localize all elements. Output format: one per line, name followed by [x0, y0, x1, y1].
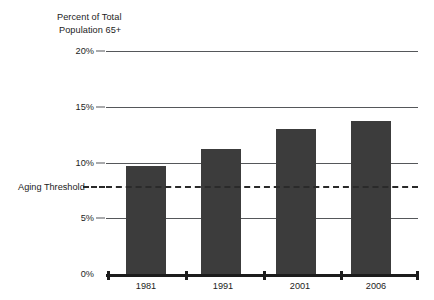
y-tick-mark-20	[96, 51, 105, 52]
x-tick-label-1991: 1991	[213, 281, 233, 291]
gridline-20	[106, 51, 418, 52]
x-axis-tick-end	[416, 271, 419, 280]
chart-title-line-2: Population 65+	[57, 24, 121, 37]
bar-1991	[201, 149, 241, 274]
gridline-15	[106, 107, 418, 108]
x-tick-label-2006: 2006	[366, 281, 386, 291]
y-tick-label-15: 15%	[76, 102, 94, 112]
y-tick-label-10: 10%	[76, 158, 94, 168]
aging-threshold-label: Aging Threshold	[18, 182, 85, 192]
y-tick-label-20: 20%	[76, 46, 94, 56]
y-tick-label-0: 0%	[81, 269, 94, 279]
y-tick-label-5: 5%	[81, 213, 94, 223]
y-tick-mark-15	[96, 106, 105, 107]
x-axis-tick-2	[263, 271, 266, 280]
bar-chart: Percent of TotalPopulation 65+ 20% 15% 1…	[0, 0, 434, 300]
y-axis-tick-labels: 20% 15% 10% 5% 0%	[0, 51, 94, 274]
bar-2006	[351, 121, 391, 274]
y-tick-mark-5	[96, 218, 105, 219]
plot-area	[106, 51, 418, 274]
bar-2001	[276, 129, 316, 274]
x-axis-line	[106, 274, 418, 277]
x-tick-label-1981: 1981	[136, 281, 156, 291]
x-tick-label-2001: 2001	[290, 281, 310, 291]
chart-title: Percent of TotalPopulation 65+	[57, 11, 121, 36]
x-axis-tick-3	[340, 271, 343, 280]
aging-threshold-line	[106, 186, 418, 188]
x-axis-tick-1	[185, 271, 188, 280]
bar-1981	[126, 166, 166, 274]
x-axis-tick-start	[107, 271, 110, 280]
y-tick-mark-10	[96, 162, 105, 163]
aging-threshold-leader-line	[83, 186, 105, 188]
chart-title-line-1: Percent of Total	[57, 12, 121, 22]
